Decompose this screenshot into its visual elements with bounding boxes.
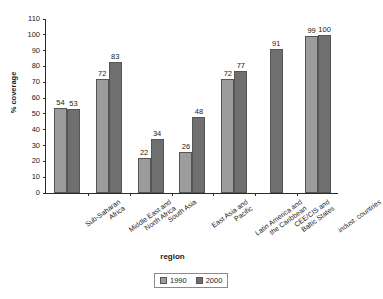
bar-2000: 91	[270, 49, 283, 193]
light-gray-swatch-icon	[160, 277, 167, 284]
bar-value-label: 48	[195, 107, 203, 116]
bar-group: 99100	[297, 20, 339, 193]
x-axis-tick	[255, 193, 256, 196]
bar-value-label: 72	[224, 69, 232, 78]
bar-value-label: 100	[318, 25, 331, 34]
bar-1990: 26	[179, 152, 192, 193]
bar-value-label: 26	[182, 142, 190, 151]
plot-area: 0102030405060708090100110545372832234264…	[45, 20, 338, 194]
y-tick-label: 40	[32, 125, 40, 134]
bar-1990: 54	[54, 108, 67, 193]
bar-2000: 48	[192, 117, 205, 193]
bar-group: 91	[255, 20, 297, 193]
y-axis-title: % coverage	[9, 58, 18, 128]
legend-item: 2000	[196, 276, 223, 285]
x-axis-tick	[88, 193, 89, 196]
x-axis-tick	[297, 193, 298, 196]
bar-group: 2648	[172, 20, 214, 193]
y-tick-label: 50	[32, 109, 40, 118]
y-tick-label: 90	[32, 46, 40, 55]
y-tick-label: 30	[32, 141, 40, 150]
bar-2000: 53	[67, 109, 80, 193]
bar-value-label: 53	[69, 99, 77, 108]
bar-group: 7283	[88, 20, 130, 193]
bar-group: 7277	[213, 20, 255, 193]
x-axis-tick	[172, 193, 173, 196]
bar-group: 2234	[130, 20, 172, 193]
y-tick-label: 100	[27, 30, 40, 39]
bar-1990: 72	[221, 79, 234, 193]
bar-value-label: 72	[98, 69, 106, 78]
bar-value-label: 91	[272, 39, 280, 48]
y-tick-label: 80	[32, 61, 40, 70]
bar-2000: 34	[151, 139, 164, 193]
legend-item: 1990	[160, 276, 187, 285]
bar-2000: 83	[109, 62, 122, 193]
x-axis-category-label: Sub-SaharanAfrica	[84, 198, 127, 235]
bar-value-label: 34	[153, 129, 161, 138]
y-tick-label: 20	[32, 156, 40, 165]
bar-2000: 100	[318, 35, 331, 193]
bar-1990: 99	[305, 36, 318, 193]
y-tick-label: 70	[32, 77, 40, 86]
legend-label: 2000	[206, 276, 223, 285]
y-tick-label: 60	[32, 93, 40, 102]
category-label-line: indust. countries	[337, 198, 383, 234]
y-tick-label: 0	[36, 188, 40, 197]
bar-value-label: 83	[111, 52, 119, 61]
bar-value-label: 54	[56, 98, 64, 107]
bar-group: 5453	[46, 20, 88, 193]
x-axis-tick	[213, 193, 214, 196]
legend-label: 1990	[170, 276, 187, 285]
y-tick-label: 110	[28, 14, 40, 23]
bar-value-label: 77	[237, 61, 245, 70]
y-tick-label: 10	[32, 172, 40, 181]
dark-gray-swatch-icon	[196, 277, 203, 284]
bar-2000: 77	[234, 71, 247, 193]
chart-legend: 1990 2000	[154, 273, 228, 288]
x-axis-title: region	[0, 252, 345, 261]
x-axis-category-label: East Asia andPacific	[210, 198, 254, 236]
bar-1990: 22	[138, 158, 151, 193]
bar-value-label: 99	[307, 26, 315, 35]
x-axis-category-label: indust. countries	[337, 198, 383, 234]
bar-1990: 72	[96, 79, 109, 193]
x-axis-tick	[130, 193, 131, 196]
bar-value-label: 22	[140, 148, 148, 157]
